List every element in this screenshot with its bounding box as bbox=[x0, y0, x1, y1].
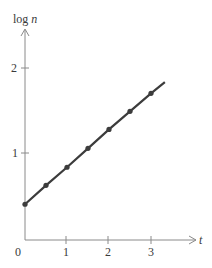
y-tick-label-1: 1 bbox=[12, 146, 18, 160]
chart: log n t 0 1 2 3 1 2 bbox=[0, 0, 212, 268]
data-point-marker bbox=[43, 183, 48, 188]
x-tick-label-2: 2 bbox=[105, 245, 111, 259]
data-point-marker bbox=[148, 91, 153, 96]
y-tick-label-2: 2 bbox=[11, 61, 17, 75]
data-point-marker bbox=[22, 202, 27, 207]
data-point-marker bbox=[106, 127, 111, 132]
data-point-marker bbox=[64, 165, 69, 170]
x-tick-label-3: 3 bbox=[148, 245, 154, 259]
origin-label: 0 bbox=[15, 245, 21, 259]
data-point-marker bbox=[85, 146, 90, 151]
labels: log n t 0 1 2 3 1 2 bbox=[11, 12, 203, 259]
axes bbox=[21, 29, 196, 244]
y-axis-label: log n bbox=[13, 12, 37, 26]
x-axis-label: t bbox=[199, 233, 203, 247]
data-series bbox=[22, 82, 164, 207]
x-tick-label-1: 1 bbox=[63, 245, 69, 259]
data-point-marker bbox=[127, 109, 132, 114]
